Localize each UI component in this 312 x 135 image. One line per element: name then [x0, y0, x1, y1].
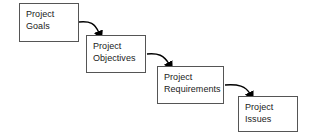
node-project-issues-label: Project Issues	[245, 102, 273, 125]
node-project-goals-label: Project Goals	[26, 9, 54, 32]
flow-diagram-canvas: Project Goals Project Objectives Project…	[0, 0, 312, 135]
node-project-issues: Project Issues	[238, 96, 298, 132]
arrow-goals-to-objectives	[79, 22, 99, 33]
node-project-goals: Project Goals	[19, 3, 79, 42]
arrow-objectives-to-requirements	[147, 54, 169, 64]
node-project-objectives: Project Objectives	[86, 35, 146, 73]
node-project-requirements: Project Requirements	[157, 66, 224, 104]
arrow-requirements-to-issues	[225, 85, 250, 94]
node-project-requirements-label: Project Requirements	[164, 72, 221, 95]
node-project-objectives-label: Project Objectives	[93, 41, 136, 64]
